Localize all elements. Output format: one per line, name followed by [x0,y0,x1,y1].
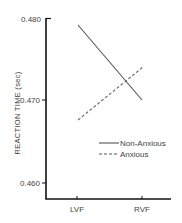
y-tick-label: 0.470 [20,96,41,105]
legend-label-anxious: Anxious [120,150,148,159]
legend-label-non-anxious: Non-Anxious [120,139,166,148]
anxious-line [78,67,143,120]
legend: Non-Anxious Anxious [99,139,166,159]
y-axis-title: REACTION TIME (sec) [13,71,22,154]
axes [42,18,171,199]
non-anxious-line [78,25,142,100]
reaction-time-chart: REACTION TIME (sec) 0.480 0.470 0.460 LV… [0,0,182,223]
y-tick-label: 0.480 [21,15,42,24]
x-tick-label-lvf: LVF [70,205,84,214]
x-tick-label-rvf: RVF [134,205,150,214]
y-tick-label: 0.460 [20,179,41,188]
series-anxious [78,67,143,120]
chart-svg: REACTION TIME (sec) 0.480 0.470 0.460 LV… [0,0,182,223]
series-non-anxious [78,25,142,100]
